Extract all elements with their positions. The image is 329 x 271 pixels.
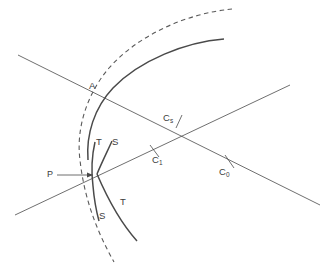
geometry-diagram: A P T S S T Cs C1 C0 [0,0,329,271]
label-point-a: A [89,81,95,91]
label-tangent-upper: T [96,137,102,147]
label-c-s-main: C [163,112,170,123]
label-c-s: Cs [163,113,173,123]
straight-line-descending [18,55,320,205]
label-c-s-sub: s [170,117,173,124]
tick-mark-cs [176,115,182,128]
label-c-0-sub: 0 [226,171,230,178]
label-c-0: C0 [219,167,230,177]
label-point-p: P [47,170,53,179]
label-c-0-main: C [219,166,226,177]
cusp-branch-lower [97,174,137,241]
label-c-1: C1 [152,155,163,165]
label-sagittal-lower: S [99,211,105,221]
label-sagittal-upper: S [112,137,118,147]
label-c-1-main: C [152,154,159,165]
cusp-branch-inner [92,142,99,221]
label-tangent-lower: T [120,197,126,207]
diagram-canvas [0,0,329,271]
dashed-circular-arc [79,9,232,262]
label-c-1-sub: 1 [159,159,163,166]
straight-line-ascending [15,85,290,215]
